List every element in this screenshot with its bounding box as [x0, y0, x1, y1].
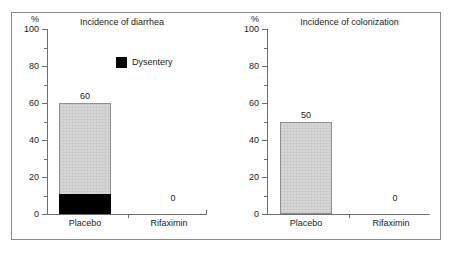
- y-tick-minor-30-right: [264, 159, 267, 160]
- y-axis-line-right: [267, 29, 268, 215]
- y-tick-major-100-right: [262, 29, 267, 30]
- x-tick-mid-left: [128, 214, 129, 218]
- x-axis-line-left: [47, 214, 207, 215]
- bar-value-label-placebo-right: 50: [280, 111, 332, 120]
- y-tick-label-60-left: 60: [12, 99, 39, 108]
- y-tick-label-0-right: 0: [230, 210, 259, 219]
- bar-value-label-rifaximin-left: 0: [147, 194, 199, 203]
- y-tick-major-40-left: [42, 140, 47, 141]
- bar-value-label-rifaximin-right: 0: [369, 194, 421, 203]
- bar-placebo-colonization: [280, 122, 332, 214]
- y-tick-major-20-left: [42, 177, 47, 178]
- bar-placebo-dysentery: [59, 194, 111, 214]
- y-tick-major-100-left: [42, 29, 47, 30]
- plot-area-left: 100 80 60 40 20 0 % Incidence of diarrhe…: [12, 13, 227, 241]
- y-tick-label-0-left: 0: [12, 210, 39, 219]
- y-tick-minor-30-left: [44, 159, 47, 160]
- y-tick-major-0-right: [262, 214, 267, 215]
- y-tick-minor-50-right: [264, 122, 267, 123]
- y-tick-minor-10-right: [264, 196, 267, 197]
- y-tick-label-40-left: 40: [12, 136, 39, 145]
- chart-panel-colonization: 100 80 60 40 20 0 % Incidence of coloniz…: [227, 13, 440, 241]
- y-tick-minor-70-right: [264, 85, 267, 86]
- chart-panel-diarrhea: 100 80 60 40 20 0 % Incidence of diarrhe…: [12, 13, 227, 241]
- legend-left: Dysentery: [116, 57, 173, 68]
- y-tick-minor-50-left: [44, 122, 47, 123]
- y-tick-minor-10-left: [44, 196, 47, 197]
- y-tick-label-40-right: 40: [230, 136, 259, 145]
- y-tick-label-20-left: 20: [12, 173, 39, 182]
- y-tick-label-80-right: 80: [230, 62, 259, 71]
- y-tick-minor-90-right: [264, 48, 267, 49]
- x-tick-label-rifaximin-left: Rifaximin: [135, 218, 203, 228]
- y-tick-label-100-left: 100: [12, 25, 39, 34]
- y-tick-major-20-right: [262, 177, 267, 178]
- y-tick-major-60-left: [42, 103, 47, 104]
- y-tick-minor-70-left: [44, 85, 47, 86]
- y-axis-unit-right: %: [251, 15, 259, 24]
- y-tick-major-0-left: [42, 214, 47, 215]
- figure-canvas: 100 80 60 40 20 0 % Incidence of diarrhe…: [0, 0, 453, 253]
- y-tick-major-40-right: [262, 140, 267, 141]
- x-tick-end-left: [206, 210, 207, 215]
- y-axis-unit-left: %: [31, 15, 39, 24]
- x-tick-label-rifaximin-right: Rifaximin: [357, 218, 425, 228]
- y-tick-label-100-right: 100: [230, 25, 259, 34]
- y-tick-label-20-right: 20: [230, 173, 259, 182]
- y-tick-label-80-left: 80: [12, 62, 39, 71]
- x-tick-mid-right: [349, 214, 350, 218]
- y-tick-label-60-right: 60: [230, 99, 259, 108]
- x-tick-label-placebo-right: Placebo: [272, 218, 340, 228]
- figure-border: 100 80 60 40 20 0 % Incidence of diarrhe…: [11, 12, 441, 240]
- legend-swatch-dysentery-icon: [116, 57, 127, 68]
- panel-title-colonization: Incidence of colonization: [272, 17, 427, 27]
- plot-area-right: 100 80 60 40 20 0 % Incidence of coloniz…: [227, 13, 440, 241]
- y-axis-line-left: [47, 29, 48, 215]
- bar-value-label-placebo-left: 60: [59, 92, 111, 101]
- x-tick-label-placebo-left: Placebo: [51, 218, 119, 228]
- y-tick-minor-90-left: [44, 48, 47, 49]
- y-tick-major-80-left: [42, 66, 47, 67]
- panel-title-diarrhea: Incidence of diarrhea: [52, 17, 192, 27]
- y-tick-major-80-right: [262, 66, 267, 67]
- y-tick-major-60-right: [262, 103, 267, 104]
- legend-label-dysentery: Dysentery: [132, 57, 173, 68]
